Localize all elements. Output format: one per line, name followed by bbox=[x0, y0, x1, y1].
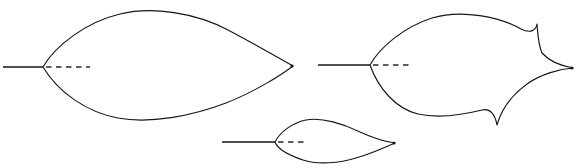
right-cusp-node-large-lens bbox=[290, 64, 293, 67]
right-cusp-node-concave-cusped bbox=[571, 67, 574, 70]
canvas-background bbox=[0, 0, 582, 168]
diagram-canvas bbox=[0, 0, 582, 168]
right-cusp-node-small-lens bbox=[393, 142, 396, 145]
figure-container bbox=[0, 0, 582, 168]
